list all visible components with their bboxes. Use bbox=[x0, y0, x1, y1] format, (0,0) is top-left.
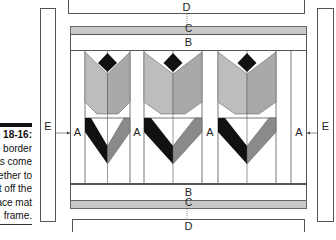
tulip-blocks-panel bbox=[70, 50, 307, 184]
label-a-1: A bbox=[70, 126, 85, 138]
label-a-3: A bbox=[202, 126, 218, 138]
label-a-2: A bbox=[130, 126, 144, 138]
label-a-4: A bbox=[291, 126, 307, 138]
